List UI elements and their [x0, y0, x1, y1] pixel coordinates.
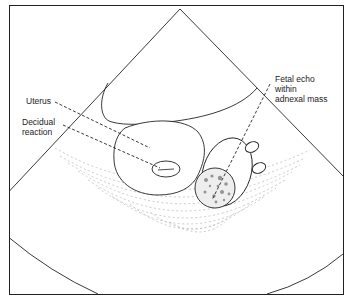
sector-bottom-arc-right: [267, 254, 343, 294]
ultrasound-diagram: [0, 0, 351, 305]
uterus-label: Uterus: [26, 96, 51, 106]
decidual-reaction-label: Decidual reaction: [22, 117, 55, 137]
bladder-outline: [102, 83, 257, 124]
small-follicle-lower: [251, 161, 268, 176]
fetal-echo-label: Fetal echo within adnexal mass: [275, 74, 327, 104]
uterus-outline: [114, 121, 205, 195]
decidual-reaction-shape: [152, 161, 180, 177]
sector-bottom-arc-left: [10, 238, 99, 294]
